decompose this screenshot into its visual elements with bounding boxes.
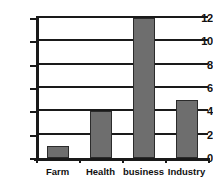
gridline: [36, 16, 208, 18]
x-tick-label: Farm: [36, 167, 79, 177]
bar: [47, 146, 69, 158]
x-tick-mark: [208, 158, 210, 163]
plot-area: [36, 18, 208, 158]
x-tick-mark: [165, 158, 167, 163]
gridline: [36, 63, 208, 65]
x-tick-mark: [79, 158, 81, 163]
x-tick-label: Health: [79, 167, 122, 177]
x-tick-label: Industry: [165, 167, 208, 177]
bar-chart: 024681012 FarmHealthbusinessIndustry: [0, 0, 213, 190]
x-tick-mark: [36, 158, 38, 163]
bar: [133, 18, 155, 158]
x-tick-label: business: [122, 167, 165, 177]
x-tick-mark: [122, 158, 124, 163]
bar: [90, 111, 112, 158]
gridline: [36, 86, 208, 88]
gridline: [36, 39, 208, 41]
bar: [176, 100, 198, 158]
